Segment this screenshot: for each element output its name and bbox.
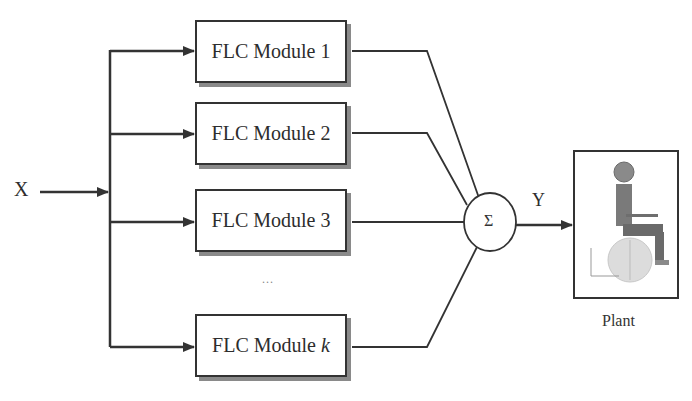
plant-box — [573, 150, 679, 299]
module-label-prefix: FLC Module — [212, 209, 321, 232]
module-label-index: 3 — [320, 209, 330, 232]
flc-module-1: FLC Module 1 — [195, 20, 347, 83]
flc-module-k: FLC Module k — [195, 314, 347, 377]
module-label-index: 1 — [320, 40, 330, 63]
module-label-index: k — [321, 334, 330, 357]
module-label-prefix: FLC Module — [212, 122, 321, 145]
summer-symbol: Σ — [484, 212, 493, 230]
input-label-x: X — [14, 178, 28, 201]
module-label-prefix: FLC Module — [212, 334, 321, 357]
flc-module-3: FLC Module 3 — [195, 189, 347, 252]
plant-label: Plant — [602, 312, 635, 330]
flc-module-2: FLC Module 2 — [195, 102, 347, 165]
module-label-index: 2 — [320, 122, 330, 145]
module-label-prefix: FLC Module — [212, 40, 321, 63]
output-label-y: Y — [532, 190, 545, 211]
wheelchair-figure-icon — [575, 152, 677, 297]
ellipsis: ... — [262, 272, 274, 287]
